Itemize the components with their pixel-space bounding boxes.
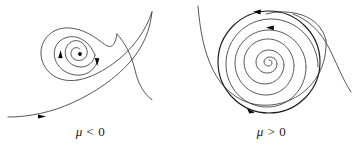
trajectory-inner-spiral-turn-4 — [235, 30, 306, 95]
flow-arrow-icon — [266, 26, 274, 31]
panel-caption-mu-positive: μ > 0 — [181, 124, 362, 140]
caption-mu-symbol: μ — [76, 124, 83, 139]
trajectory-outside-right-tail — [293, 14, 351, 92]
phase-portrait-svg-mu-negative — [0, 0, 181, 124]
flow-arrow-icon — [253, 10, 261, 15]
fixed-point-marker — [78, 52, 82, 56]
trajectory-inner-spiral-turn-1 — [264, 57, 277, 66]
trajectory-inner-spiral-turn-3 — [244, 39, 294, 84]
hopf-bifurcation-figure: μ < 0 — [0, 0, 362, 155]
caption-value: 0 — [98, 124, 105, 139]
flow-arrowheads-group — [38, 50, 99, 118]
flow-arrow-icon — [38, 114, 46, 118]
caption-value: 0 — [279, 124, 286, 139]
trajectory-inner-spiral-turn-2 — [256, 50, 284, 73]
caption-mu-symbol: μ — [257, 124, 264, 139]
caption-relation: > — [264, 124, 279, 139]
panel-caption-mu-negative: μ < 0 — [0, 124, 181, 140]
limit-cycle-orbit — [218, 11, 320, 113]
caption-relation: < — [83, 124, 98, 139]
phase-portrait-svg-mu-positive — [181, 0, 362, 124]
flow-arrow-icon — [95, 58, 99, 66]
phase-portrait-panel-mu-negative: μ < 0 — [0, 0, 181, 155]
phase-portrait-panel-mu-positive: μ > 0 — [181, 0, 362, 155]
flow-arrowheads-group — [247, 10, 274, 114]
flow-arrow-icon — [58, 50, 62, 58]
trajectory-incoming-branch — [8, 12, 152, 117]
